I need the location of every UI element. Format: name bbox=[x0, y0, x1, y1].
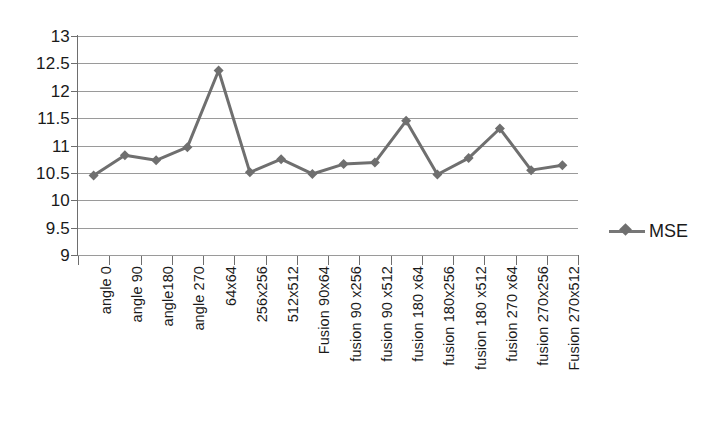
x-tick-mark bbox=[547, 256, 548, 265]
y-tick-label: 10 bbox=[18, 192, 70, 209]
x-tick-mark bbox=[234, 256, 235, 265]
y-tick-mark bbox=[71, 173, 78, 174]
data-point-marker bbox=[557, 160, 567, 170]
y-tick-label: 11.5 bbox=[18, 110, 70, 127]
x-tick-mark bbox=[516, 256, 517, 265]
series-line bbox=[94, 70, 563, 175]
x-tick-label: angle 0 bbox=[94, 266, 109, 314]
x-tick-label: fusion 180x256 bbox=[437, 266, 452, 366]
x-tick-mark bbox=[484, 256, 485, 265]
data-point-marker bbox=[151, 155, 161, 165]
y-axis-tick-labels: 1312.51211.51110.5109.59 bbox=[18, 0, 70, 448]
x-tick-mark bbox=[297, 256, 298, 265]
series-mse bbox=[78, 36, 578, 255]
x-tick-mark bbox=[328, 256, 329, 265]
y-tick-label: 9.5 bbox=[18, 219, 70, 236]
data-point-marker bbox=[307, 169, 317, 179]
x-tick-mark bbox=[578, 256, 579, 265]
x-tick-label: fusion 270x256 bbox=[531, 266, 546, 366]
x-tick-label: fusion 270 x64 bbox=[500, 266, 515, 362]
data-point-marker bbox=[182, 142, 192, 152]
x-tick-mark bbox=[78, 256, 79, 265]
y-tick-label: 10.5 bbox=[18, 164, 70, 181]
legend-label-mse: MSE bbox=[649, 222, 688, 240]
data-point-marker bbox=[276, 154, 286, 164]
x-tick-label: angle 90 bbox=[125, 266, 140, 322]
x-tick-label: 256x256 bbox=[250, 266, 265, 322]
data-point-marker bbox=[214, 65, 224, 75]
legend-diamond-icon bbox=[619, 223, 632, 236]
y-tick-label: 12 bbox=[18, 82, 70, 99]
x-tick-mark bbox=[109, 256, 110, 265]
x-tick-mark bbox=[141, 256, 142, 265]
y-tick-label: 13 bbox=[18, 28, 70, 45]
x-tick-mark bbox=[391, 256, 392, 265]
x-tick-label: 512x512 bbox=[281, 266, 296, 322]
y-tick-mark bbox=[71, 255, 78, 256]
y-tick-mark bbox=[71, 91, 78, 92]
x-tick-label: angle 270 bbox=[187, 266, 202, 331]
x-tick-mark bbox=[172, 256, 173, 265]
x-tick-label: fusion 90 x512 bbox=[375, 266, 390, 362]
y-tick-mark bbox=[71, 63, 78, 64]
x-tick-mark bbox=[422, 256, 423, 265]
chart-legend: MSE bbox=[609, 222, 688, 240]
x-tick-mark bbox=[266, 256, 267, 265]
x-tick-mark bbox=[359, 256, 360, 265]
y-tick-mark bbox=[71, 118, 78, 119]
x-tick-label: Fusion 270x512 bbox=[562, 266, 577, 371]
x-tick-label: angle180 bbox=[156, 266, 171, 326]
x-tick-label: fusion 90 x256 bbox=[344, 266, 359, 362]
y-tick-mark bbox=[71, 36, 78, 37]
x-tick-label: fusion 180 x64 bbox=[406, 266, 421, 362]
x-tick-label: Fusion 90x64 bbox=[312, 266, 327, 354]
x-tick-mark bbox=[203, 256, 204, 265]
data-point-marker bbox=[245, 167, 255, 177]
y-tick-mark bbox=[71, 146, 78, 147]
y-tick-label: 11 bbox=[18, 137, 70, 154]
legend-marker-mse bbox=[609, 224, 645, 238]
plot-area bbox=[78, 36, 578, 255]
x-tick-mark bbox=[453, 256, 454, 265]
y-tick-label: 9 bbox=[18, 247, 70, 264]
y-tick-mark bbox=[71, 200, 78, 201]
y-tick-mark bbox=[71, 228, 78, 229]
data-point-marker bbox=[339, 159, 349, 169]
x-tick-label: fusion 180 x512 bbox=[469, 266, 484, 370]
x-tick-label: 64x64 bbox=[219, 266, 234, 306]
mse-line-chart: 1312.51211.51110.5109.59 angle 0angle 90… bbox=[0, 0, 709, 448]
y-tick-label: 12.5 bbox=[18, 55, 70, 72]
x-axis-tick-labels: angle 0angle 90angle180angle 27064x64256… bbox=[78, 266, 578, 426]
